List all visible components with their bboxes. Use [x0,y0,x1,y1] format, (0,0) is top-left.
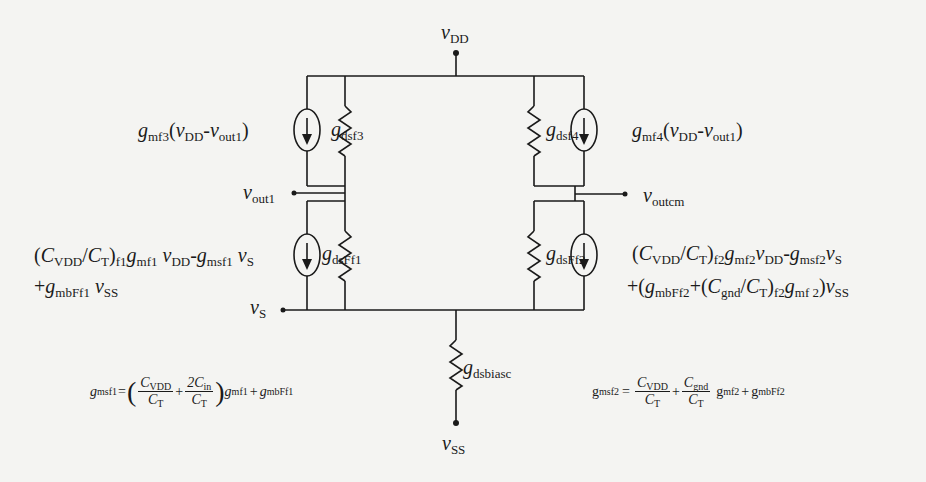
circuit-schematic [0,0,926,482]
resistor-gdsbiasc [450,340,462,390]
source-label-f3: gmf3(vDD-vout1) [138,120,249,140]
vs-terminal-dot [281,308,286,313]
equation-gmsf1: gmsf1 = ( CVDD CT + 2Cin CT ) gmf1 + gmb… [90,376,293,407]
equation-gmsf2: gmsf2 = CVDD CT + Cgnd CT gmf2 + gmbFf2 [592,376,785,407]
voutcm-terminal-dot [623,192,628,197]
component-label-gdsFf2: gdsFf2 [546,243,586,263]
fraction: CVDD CT [138,376,173,407]
component-label-gdsbiasc: gdsbiasc [463,357,511,377]
arrowhead-icon [302,259,312,270]
vout1-terminal-dot [292,191,297,196]
node-label-vs: vS [250,297,266,317]
source-label-ff2-line1: (CVDD/CT)f2gmf2vDD-gmsf2vS [632,243,842,263]
source-label-ff1-line1: (CVDD/CT)f1gmf1 vDD-gmsf1 vS [34,245,254,265]
node-label-vss: vSS [442,433,465,453]
node-label-vout1: vout1 [243,182,275,202]
source-label-ff1-line2: +gmbFf1 vSS [34,276,118,296]
resistor-gdsf4 [528,106,540,156]
node-label-vdd: vDD [441,22,469,42]
component-label-gdsf3: gdsf3 [331,119,363,139]
resistor-gdsFf2 [528,231,540,281]
source-label-ff2-line2: +(gmbFf2+(Cgnd/CT)f2gmf 2)vSS [627,276,849,296]
node-label-voutcm: voutcm [643,185,684,205]
component-label-gdsFf1: gdsFf1 [322,243,362,263]
fraction: 2Cin CT [185,376,213,407]
source-label-f4: gmf4(vDD-vout1) [632,120,743,140]
fraction: CVDD CT [635,376,670,407]
arrowhead-icon [302,134,312,145]
component-label-gdsf4: gdsf4 [546,119,578,139]
fraction: Cgnd CT [682,376,710,407]
vdd-terminal-dot [453,50,459,56]
vss-terminal-dot [453,420,459,426]
arrowhead-icon [579,134,589,145]
